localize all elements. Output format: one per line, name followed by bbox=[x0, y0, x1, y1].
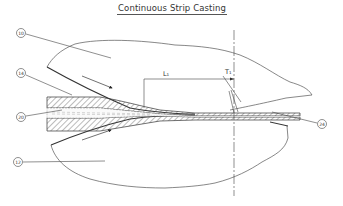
callout-label: 10 bbox=[18, 31, 24, 36]
callout-label: 14 bbox=[18, 71, 24, 76]
length-label: L₁ bbox=[163, 70, 170, 78]
callout-10: 10 bbox=[17, 29, 112, 59]
thickness-dimension: T₁ bbox=[223, 68, 241, 113]
strip bbox=[47, 97, 300, 131]
callout-label: 12 bbox=[15, 160, 21, 165]
callout-label: 24 bbox=[319, 122, 325, 127]
callout-14: 14 bbox=[17, 69, 73, 96]
strip-casting-diagram: L₁ T₁ 10 14 20 12 24 bbox=[0, 0, 343, 206]
callout-12: 12 bbox=[14, 158, 106, 167]
rotation-arrow-upper bbox=[82, 76, 112, 88]
callout-label: 20 bbox=[18, 115, 24, 120]
thickness-label: T₁ bbox=[224, 68, 232, 76]
length-dimension: L₁ bbox=[144, 70, 234, 108]
